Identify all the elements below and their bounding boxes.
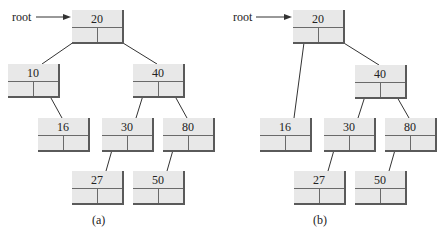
arrowhead-icon	[63, 14, 71, 20]
tree-node-27: 27	[294, 171, 346, 205]
node-value: 80	[163, 118, 213, 136]
caption-b: (b)	[313, 213, 327, 227]
node-value: 80	[385, 118, 435, 136]
tree-node-30: 30	[102, 118, 154, 152]
left-pointer-cell	[133, 189, 159, 203]
node-value: 16	[260, 118, 310, 136]
right-pointer-cell	[158, 189, 183, 203]
tree-node-20: 20	[293, 10, 345, 44]
left-pointer-cell	[8, 82, 34, 96]
right-pointer-cell	[97, 189, 122, 203]
right-pointer-cell	[380, 189, 405, 203]
left-pointer-cell	[72, 28, 98, 42]
arrowhead-icon	[284, 14, 292, 20]
right-pointer-cell	[158, 82, 183, 96]
right-pointer-cell	[63, 136, 88, 150]
node-value: 27	[72, 171, 122, 189]
node-value: 40	[133, 64, 183, 82]
node-value: 30	[102, 118, 152, 136]
left-pointer-cell	[163, 136, 189, 150]
bst-deletion-diagram: root (a) 2010401630802750 root (b) 20401…	[0, 0, 447, 235]
tree-node-50: 50	[355, 171, 407, 205]
node-value: 50	[355, 171, 405, 189]
tree-node-30: 30	[324, 118, 376, 152]
right-pointer-cell	[380, 83, 405, 97]
root-label: root	[12, 10, 31, 24]
left-pointer-cell	[38, 136, 64, 150]
right-pointer-cell	[410, 136, 435, 150]
tree-node-40: 40	[355, 65, 407, 99]
node-value: 40	[355, 65, 405, 83]
node-value: 50	[133, 171, 183, 189]
left-pointer-cell	[293, 28, 319, 42]
left-pointer-cell	[355, 83, 381, 97]
left-pointer-cell	[355, 189, 381, 203]
tree-node-27: 27	[72, 171, 124, 205]
tree-node-20: 20	[72, 10, 124, 44]
node-value: 16	[38, 118, 88, 136]
right-pointer-cell	[33, 82, 58, 96]
left-pointer-cell	[324, 136, 350, 150]
left-pointer-cell	[385, 136, 411, 150]
left-pointer-cell	[102, 136, 128, 150]
node-value: 27	[294, 171, 344, 189]
right-pointer-cell	[318, 28, 343, 42]
left-pointer-cell	[294, 189, 320, 203]
node-value: 30	[324, 118, 374, 136]
tree-node-40: 40	[133, 64, 185, 98]
left-pointer-cell	[133, 82, 159, 96]
tree-node-80: 80	[385, 118, 437, 152]
right-pointer-cell	[319, 189, 344, 203]
left-pointer-cell	[260, 136, 286, 150]
node-value: 10	[8, 64, 58, 82]
tree-node-80: 80	[163, 118, 215, 152]
edge-line	[294, 35, 305, 118]
right-pointer-cell	[97, 28, 122, 42]
right-pointer-cell	[349, 136, 374, 150]
caption-a: (a)	[92, 213, 105, 227]
right-pointer-cell	[188, 136, 213, 150]
node-value: 20	[293, 10, 343, 28]
tree-node-10: 10	[8, 64, 60, 98]
tree-node-50: 50	[133, 171, 185, 205]
right-pointer-cell	[285, 136, 310, 150]
node-value: 20	[72, 10, 122, 28]
root-label: root	[233, 10, 252, 24]
right-pointer-cell	[127, 136, 152, 150]
tree-node-16: 16	[38, 118, 90, 152]
left-pointer-cell	[72, 189, 98, 203]
tree-node-16: 16	[260, 118, 312, 152]
